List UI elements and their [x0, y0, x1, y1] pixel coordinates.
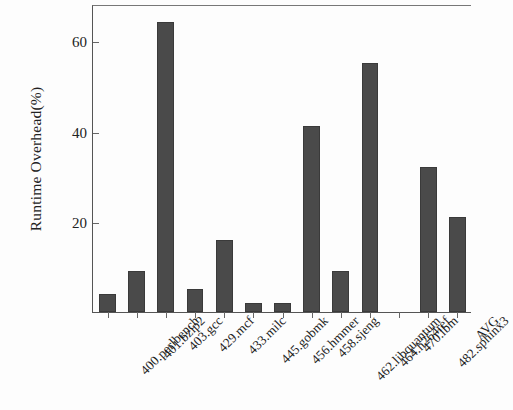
bars-container	[93, 6, 471, 312]
bar-458-sjeng	[303, 126, 320, 312]
bar-464-h264ref	[362, 63, 379, 312]
bar-429-mcf	[187, 289, 204, 312]
bar-avg	[449, 217, 466, 312]
bar-456-hmmer	[274, 303, 291, 312]
bar-403-gcc	[157, 22, 174, 312]
bar-400-perlbench	[99, 294, 116, 312]
bar-445-gobmk	[245, 303, 262, 312]
plot-area: 204060	[92, 5, 471, 313]
y-tick-label: 40	[55, 124, 87, 141]
bar-482-sphinx3	[420, 167, 437, 312]
y-tick-label: 20	[55, 215, 87, 232]
y-axis-title: Runtime Overhead(%)	[27, 49, 45, 269]
y-tick-label: 60	[55, 34, 87, 51]
bar-462-libquantum	[332, 271, 349, 312]
x-axis-labels: 400.perlbench401.bzip2403.gcc429.mcf433.…	[92, 313, 471, 408]
bar-433-milc	[216, 240, 233, 312]
bar-401-bzip2	[128, 271, 145, 312]
